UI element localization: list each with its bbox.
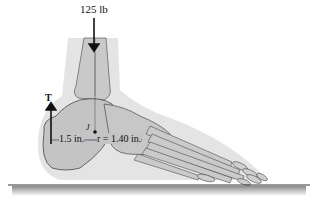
floor-shadow (12, 186, 306, 196)
dimension-left-label: 1.5 in. (59, 133, 84, 144)
dimension-right-label: r = 1.40 in. (97, 133, 141, 144)
weight-label: 125 lb (80, 3, 108, 15)
joint-label: J (86, 123, 90, 132)
tension-label: T (45, 92, 52, 103)
foot-diagram (0, 0, 317, 206)
